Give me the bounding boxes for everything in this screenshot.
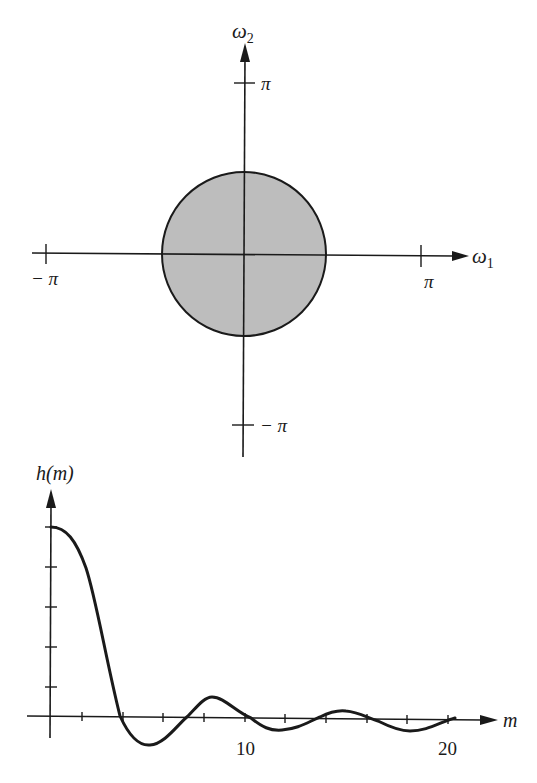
figure: ω2 ω1 π − π − π π (0, 0, 537, 783)
m-axis-label: m (503, 709, 517, 731)
omega1-label: ω1 (472, 244, 494, 271)
x-pos-pi-label: π (424, 271, 434, 292)
h-axis-arrow-icon (46, 489, 56, 508)
omega2-axis (243, 55, 245, 457)
impulse-response-curve (51, 527, 455, 745)
impulse-response-plot: h(m) m 10 20 (27, 462, 517, 759)
y-neg-pi-label: − π (260, 415, 288, 436)
frequency-response-diagram: ω2 ω1 π − π − π π (31, 19, 494, 457)
m-tick-label-20: 20 (438, 738, 457, 759)
h-axis-label: h(m) (36, 462, 74, 485)
omega2-label: ω2 (232, 19, 254, 46)
m-axis-arrow-icon (480, 715, 498, 725)
x-neg-pi-label: − π (31, 268, 59, 289)
h-axis (50, 505, 51, 738)
y-pos-pi-label: π (261, 73, 271, 94)
omega1-arrow-icon (452, 251, 469, 261)
m-tick-label-10: 10 (236, 738, 255, 759)
